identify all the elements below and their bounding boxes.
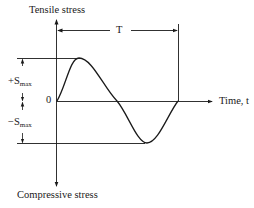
period-label: T	[116, 25, 122, 36]
minus-smax-subscript: max	[20, 121, 32, 129]
tensile-stress-label: Tensile stress	[29, 5, 85, 16]
plus-smax-symbol: +S	[8, 75, 20, 86]
minus-smax-symbol: −S	[8, 116, 20, 127]
time-axis-label: Time, t	[219, 96, 249, 107]
compressive-stress-label: Compressive stress	[17, 190, 98, 201]
minus-smax-label: −Smax	[8, 117, 32, 129]
plus-smax-label: +Smax	[8, 76, 32, 88]
plus-smax-subscript: max	[20, 80, 32, 88]
origin-label: 0	[46, 95, 51, 106]
sine-wave	[57, 58, 178, 143]
stress-cycle-diagram	[0, 0, 254, 208]
